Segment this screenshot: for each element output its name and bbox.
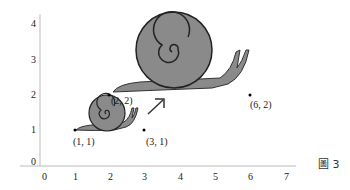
point-label-1-1: (1, 1) <box>73 136 95 148</box>
x-tick-0: 0 <box>42 171 47 182</box>
y-tick-1: 1 <box>31 124 36 135</box>
y-tick-4: 4 <box>31 18 36 29</box>
y-tick-0: 0 <box>31 156 36 167</box>
point-3-1 <box>143 129 146 132</box>
x-tick-2: 2 <box>108 171 113 182</box>
x-tick-6: 6 <box>248 171 253 182</box>
y-tick-2: 2 <box>31 89 36 100</box>
enlargement-arrow-icon <box>148 99 164 114</box>
x-tick-3: 3 <box>142 171 147 182</box>
x-tick-5: 5 <box>213 171 218 182</box>
point-label-2-2: (2, 2) <box>111 95 133 107</box>
x-tick-1: 1 <box>73 171 78 182</box>
large-snail <box>113 12 249 92</box>
point-label-3-1: (3, 1) <box>146 136 168 148</box>
coordinate-plane: 0 1 2 3 4 5 6 7 0 1 2 3 4 (1, 1) (2, 2) … <box>0 0 350 190</box>
point-label-6-2: (6, 2) <box>250 99 272 111</box>
x-tick-7: 7 <box>284 171 289 182</box>
x-tick-4: 4 <box>178 171 183 182</box>
point-1-1 <box>74 129 77 132</box>
figure-caption: 圖 3 <box>318 155 340 171</box>
point-6-2 <box>249 94 252 97</box>
y-tick-3: 3 <box>31 54 36 65</box>
